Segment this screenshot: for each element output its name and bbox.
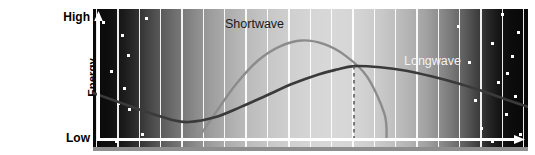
series-label-shortwave: Shortwave — [225, 17, 284, 31]
bottom-shadow-strip — [93, 147, 528, 151]
energy-balance-diagram: Energy Absorbed and Emitted at Earth's S… — [0, 0, 535, 155]
y-tick-label-low: Low — [44, 131, 90, 145]
longwave-curve — [93, 66, 528, 122]
plot-area — [93, 9, 528, 147]
shortwave-curve — [197, 40, 386, 139]
curve-layer — [93, 9, 528, 147]
series-label-longwave: Longwave — [404, 54, 461, 68]
y-tick-label-high: High — [44, 10, 90, 24]
